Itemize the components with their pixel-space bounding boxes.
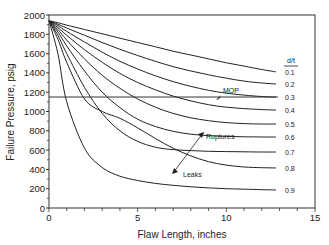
- curve-dt-0.7: [49, 21, 276, 152]
- y-tick-label: 1400: [24, 67, 45, 78]
- legend-title: d/t: [287, 57, 295, 64]
- plot-frame: [49, 15, 315, 208]
- curve-dt-0.9: [49, 21, 276, 190]
- legend-label-dt-0.5: 0.5: [285, 121, 295, 128]
- x-tick-label: 10: [221, 212, 232, 223]
- y-tick-label: 600: [29, 145, 45, 156]
- curve-dt-0.1: [49, 21, 276, 72]
- legend-label-dt-0.4: 0.4: [285, 107, 295, 114]
- leaks-label: Leaks: [183, 171, 202, 178]
- legend-label-dt-0.8: 0.8: [285, 165, 295, 172]
- y-axis-label: Failure Pressure, psig: [5, 63, 16, 160]
- x-tick-label: 5: [135, 212, 140, 223]
- y-tick-label: 1800: [24, 29, 45, 40]
- legend-label-dt-0.3: 0.3: [285, 94, 295, 101]
- mop-label: MOP: [223, 87, 239, 94]
- annotations: [49, 95, 278, 174]
- ruptures-label: Ruptures: [206, 133, 235, 141]
- x-tick-label: 0: [46, 212, 51, 223]
- failure-pressure-chart: 0200400600800100012001400160018002000051…: [0, 0, 329, 245]
- x-axis-label: Flaw Length, inches: [138, 229, 227, 240]
- legend-label-dt-0.9: 0.9: [285, 187, 295, 194]
- legend-label-dt-0.6: 0.6: [285, 134, 295, 141]
- x-tick-label: 15: [310, 212, 321, 223]
- legend-label-dt-0.2: 0.2: [285, 81, 295, 88]
- legend-label-dt-0.1: 0.1: [285, 69, 295, 76]
- y-tick-label: 0: [40, 203, 45, 214]
- y-tick-label: 200: [29, 183, 45, 194]
- y-tick-label: 1600: [24, 48, 45, 59]
- legend-label-dt-0.7: 0.7: [285, 149, 295, 156]
- rupture-leak-arrow-icon: [173, 133, 203, 173]
- y-tick-label: 1200: [24, 87, 45, 98]
- curves: 0.10.20.30.40.50.60.70.80.9: [49, 21, 295, 194]
- curve-dt-0.2: [49, 21, 276, 84]
- y-tick-label: 800: [29, 125, 45, 136]
- curve-dt-0.6: [49, 21, 276, 137]
- y-tick-label: 400: [29, 164, 45, 175]
- y-tick-label: 1000: [24, 106, 45, 117]
- y-tick-label: 2000: [24, 10, 45, 21]
